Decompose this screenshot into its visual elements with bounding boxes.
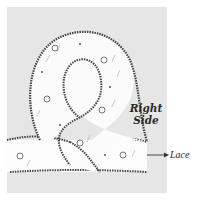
right-side-label-line1: Right [128,103,164,114]
lace-label: Lace [170,150,189,160]
right-side-label: Right Side [128,103,164,125]
sewing-illustration [0,0,198,201]
right-side-label-line2: Side [128,115,164,126]
